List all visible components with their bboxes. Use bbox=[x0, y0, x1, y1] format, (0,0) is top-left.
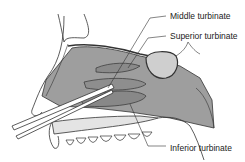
label-inferior-turbinate: Inferior turbinate bbox=[170, 143, 232, 153]
skull-base-outline bbox=[176, 42, 200, 56]
label-middle-turbinate: Middle turbinate bbox=[170, 11, 230, 21]
nasal-cavity-illustration bbox=[0, 0, 245, 162]
upper-teeth bbox=[66, 132, 152, 145]
hard-palate bbox=[52, 116, 158, 134]
label-superior-turbinate: Superior turbinate bbox=[170, 31, 238, 41]
middle-turbinate bbox=[84, 78, 146, 90]
